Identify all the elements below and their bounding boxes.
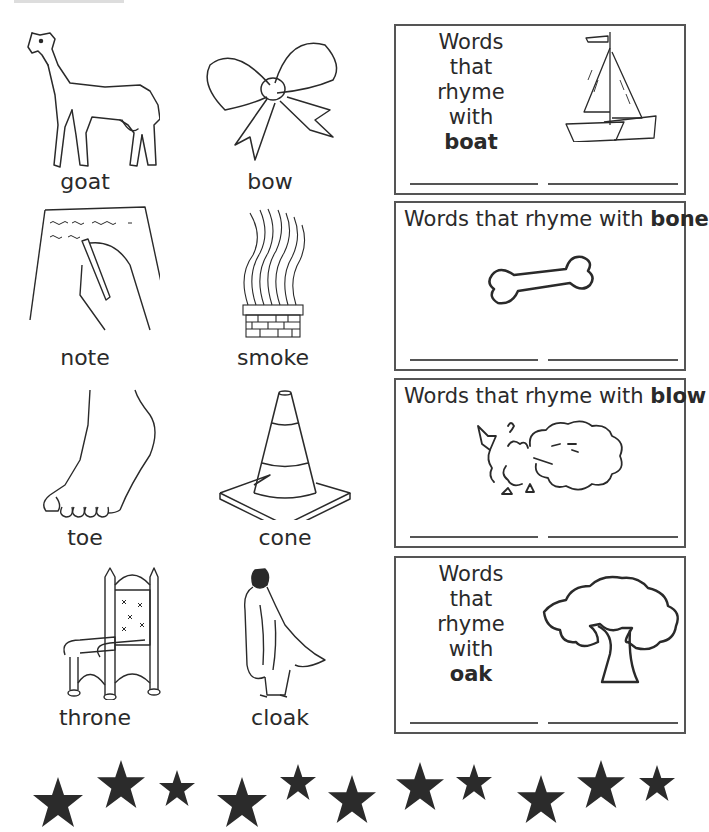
star-icon	[639, 765, 675, 801]
answer-blank-2[interactable]	[548, 536, 678, 538]
throne-icon	[20, 565, 170, 700]
picture-bow: bow	[185, 25, 355, 195]
picture-label: cloak	[195, 705, 365, 730]
picture-note: note	[0, 205, 170, 375]
picture-toe: toe	[0, 385, 170, 555]
star-icon	[396, 762, 444, 810]
star-icon	[328, 775, 376, 823]
picture-label: note	[0, 345, 170, 370]
rhyme-box-oak: Words that rhyme with oak	[394, 556, 686, 734]
star-icon	[456, 764, 492, 800]
rhyme-box-title: Words that rhyme with oak	[416, 562, 526, 687]
star-icon	[97, 760, 145, 808]
rhyme-box-title: Words that rhyme with bone	[404, 207, 709, 232]
picture-smoke: smoke	[188, 205, 358, 375]
answer-blank-1[interactable]	[410, 722, 538, 724]
star-icon	[159, 770, 195, 806]
picture-cone: cone	[200, 385, 370, 555]
answer-blank-2[interactable]	[548, 722, 678, 724]
goat-icon	[10, 25, 160, 170]
picture-throne: throne	[10, 565, 180, 740]
rhyme-target-word: boat	[444, 130, 498, 154]
picture-label: bow	[185, 169, 355, 194]
rhyme-target-word: blow	[650, 384, 706, 408]
picture-label: toe	[0, 525, 170, 550]
smoke-chimney-icon	[198, 205, 348, 340]
picture-label: throne	[10, 705, 180, 730]
foot-toe-icon	[10, 385, 160, 520]
answer-blank-1[interactable]	[410, 536, 538, 538]
star-icon	[577, 760, 625, 808]
rhyme-box-bone: Words that rhyme with bone	[394, 201, 686, 371]
star-icon	[280, 764, 316, 800]
cropped-header-text	[14, 0, 124, 3]
traffic-cone-icon	[210, 385, 360, 520]
bow-icon	[195, 25, 345, 165]
cloak-icon	[205, 565, 355, 700]
star-icon	[517, 775, 565, 823]
rhyme-box-boat: Words that rhyme with boat	[394, 24, 686, 195]
rhyme-box-title: Words that rhyme with boat	[416, 30, 526, 155]
oak-tree-icon	[542, 572, 687, 687]
answer-blank-1[interactable]	[410, 359, 538, 361]
picture-cloak: cloak	[195, 565, 365, 740]
answer-blank-2[interactable]	[548, 183, 678, 185]
picture-goat: goat	[0, 25, 170, 195]
bone-icon	[484, 253, 599, 313]
rhyme-target-word: oak	[450, 662, 493, 686]
star-icon	[33, 777, 83, 827]
star-icon	[217, 777, 267, 827]
rhyme-target-word: bone	[650, 207, 709, 231]
blowing-cloud-icon	[468, 416, 628, 506]
rhyme-box-blow: Words that rhyme with blow	[394, 378, 686, 548]
picture-label: smoke	[188, 345, 358, 370]
sailboat-icon	[564, 30, 664, 142]
picture-label: cone	[200, 525, 370, 550]
picture-label: goat	[0, 169, 170, 194]
answer-blank-1[interactable]	[410, 183, 538, 185]
answer-blank-2[interactable]	[548, 359, 678, 361]
note-writing-icon	[10, 205, 160, 335]
rhyme-box-title: Words that rhyme with blow	[404, 384, 706, 409]
